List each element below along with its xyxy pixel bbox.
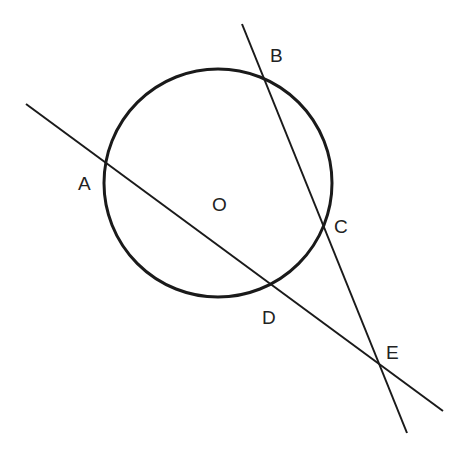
geometry-figure: A B C D E O [0,0,464,451]
point-labels: A B C D E O [78,45,399,363]
label-e: E [386,342,399,363]
label-d: D [262,307,276,328]
label-a: A [78,173,91,194]
label-o-center: O [212,194,227,215]
circle-o [104,69,332,297]
secant-line-bce [242,24,407,433]
label-b: B [270,45,283,66]
label-c: C [334,216,348,237]
